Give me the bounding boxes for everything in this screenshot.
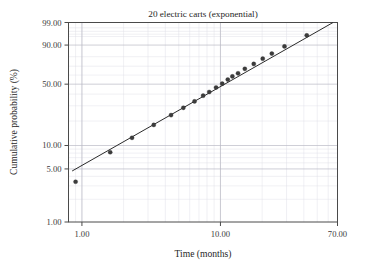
data-point — [270, 51, 274, 55]
chart-figure: 20 electric carts (exponential) 1.0010.0… — [0, 0, 371, 270]
y-tick-label: 1.00 — [46, 217, 61, 227]
y-tick-label: 90.00 — [42, 40, 61, 50]
data-point — [282, 44, 286, 48]
data-point — [261, 57, 265, 61]
chart-title: 20 electric carts (exponential) — [148, 9, 257, 19]
y-tick-label: 99.00 — [42, 18, 61, 28]
data-point — [305, 33, 309, 37]
data-point — [181, 106, 185, 110]
data-point — [73, 180, 77, 184]
x-axis-title: Time (months) — [175, 248, 232, 260]
x-tick-label: 10.00 — [211, 229, 230, 239]
data-point — [169, 113, 173, 117]
data-point — [201, 94, 205, 98]
x-tick-label: 1.00 — [74, 229, 89, 239]
data-point — [252, 62, 256, 66]
x-tick-label: 70.00 — [328, 229, 347, 239]
data-point — [130, 136, 134, 140]
data-point — [192, 99, 196, 103]
y-tick-label: 5.00 — [46, 164, 61, 174]
y-tick-label: 10.00 — [42, 140, 61, 150]
data-point — [207, 90, 211, 94]
data-point — [230, 74, 234, 78]
data-point — [226, 77, 230, 81]
data-point — [243, 67, 247, 71]
data-point — [220, 82, 224, 86]
data-point — [108, 150, 112, 154]
data-point — [152, 123, 156, 127]
data-point — [236, 71, 240, 75]
y-tick-label: 50.00 — [42, 79, 61, 89]
y-axis-title: Cumulative probability (%) — [8, 69, 20, 175]
probability-plot-svg: 20 electric carts (exponential) 1.0010.0… — [0, 0, 371, 270]
data-point — [214, 85, 218, 89]
